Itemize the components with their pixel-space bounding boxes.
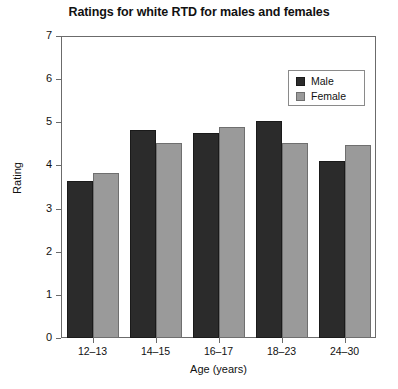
y-axis-tick: 7 — [0, 36, 61, 37]
x-tick-mark — [156, 338, 157, 343]
bar-male-3 — [256, 121, 282, 338]
chart-legend: Male Female — [288, 70, 365, 106]
y-tick-label: 7 — [46, 28, 52, 43]
x-tick-mark — [219, 338, 220, 343]
legend-entry-male: Male — [296, 75, 364, 88]
bar-chart-figure: Ratings for white RTD for males and fema… — [0, 0, 398, 389]
y-tick-label: 3 — [46, 201, 52, 216]
y-axis-tick: 6 — [0, 79, 61, 80]
x-tick-label: 14–15 — [141, 345, 170, 357]
bar-female-2 — [219, 127, 245, 338]
bar-male-4 — [319, 161, 345, 338]
y-axis-tick: 4 — [0, 165, 61, 166]
legend-swatch-male-icon — [296, 77, 305, 86]
y-axis-tick: 5 — [0, 122, 61, 123]
y-tick-label: 6 — [46, 71, 52, 86]
bar-female-4 — [345, 145, 371, 338]
y-axis-tick: 2 — [0, 252, 61, 253]
x-tick-label: 12–13 — [78, 345, 107, 357]
y-tick-label: 4 — [46, 157, 52, 172]
x-tick-mark — [345, 338, 346, 343]
x-tick-label: 24–30 — [330, 345, 359, 357]
x-axis-title: Age (years) — [61, 363, 376, 375]
x-tick-label: 16–17 — [204, 345, 233, 357]
legend-label-male: Male — [311, 76, 334, 87]
x-tick-label: 18–23 — [267, 345, 296, 357]
x-tick-mark — [93, 338, 94, 343]
bar-female-1 — [156, 143, 182, 338]
bar-male-1 — [130, 130, 156, 338]
y-axis-title: Rating — [11, 138, 23, 218]
y-tick-label: 0 — [46, 330, 52, 345]
y-tick-mark — [56, 338, 61, 339]
y-axis-tick: 0 — [0, 338, 61, 339]
bar-female-0 — [93, 173, 119, 338]
y-tick-label: 5 — [46, 114, 52, 129]
legend-entry-female: Female — [296, 90, 364, 103]
y-axis-tick: 3 — [0, 209, 61, 210]
legend-swatch-female-icon — [296, 92, 305, 101]
y-tick-label: 1 — [46, 287, 52, 302]
bar-male-0 — [67, 181, 93, 338]
legend-label-female: Female — [311, 91, 346, 102]
chart-title: Ratings for white RTD for males and fema… — [0, 5, 398, 19]
y-tick-label: 2 — [46, 244, 52, 259]
bar-female-3 — [282, 143, 308, 338]
y-axis-tick: 1 — [0, 295, 61, 296]
bar-male-2 — [193, 133, 219, 338]
x-tick-mark — [282, 338, 283, 343]
